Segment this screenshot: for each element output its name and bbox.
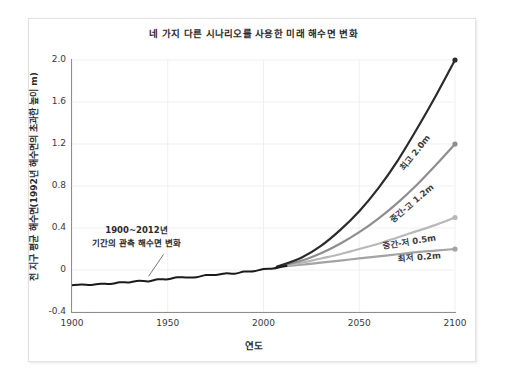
x-tick-label: 2100 [430, 318, 480, 328]
observed-annotation: 1900~2012년 기간의 관측 해수면 변화 [92, 224, 181, 250]
y-axis-line [71, 59, 72, 313]
x-axis-line [71, 312, 456, 313]
series-endpoint-marker [452, 246, 457, 251]
series-endpoint-marker [452, 215, 457, 220]
y-tick-label: 2.0 [22, 54, 66, 64]
series-line [72, 266, 286, 285]
x-tick-label: 1900 [47, 318, 97, 328]
series-endpoint-marker [452, 141, 457, 146]
x-tick-label: 2050 [334, 318, 384, 328]
annotation-line-1: 1900~2012년 [92, 224, 181, 237]
annotation-leader-line [149, 254, 164, 276]
series-endpoint-marker [452, 57, 457, 62]
x-axis-title: 연도 [0, 338, 507, 352]
x-tick-label: 1950 [143, 318, 193, 328]
y-axis-title: 전 지구 평균 해수면(1992년 해수면의 초과한 높이 m) [27, 69, 40, 285]
chart-figure: 네 가지 다른 시나리오를 사용한 미래 해수면 변화 2.01.61.20.8… [0, 0, 507, 382]
x-tick-label: 2000 [239, 318, 289, 328]
y-tick-label: -0.4 [22, 306, 66, 316]
annotation-line-2: 기간의 관측 해수면 변화 [92, 237, 181, 250]
